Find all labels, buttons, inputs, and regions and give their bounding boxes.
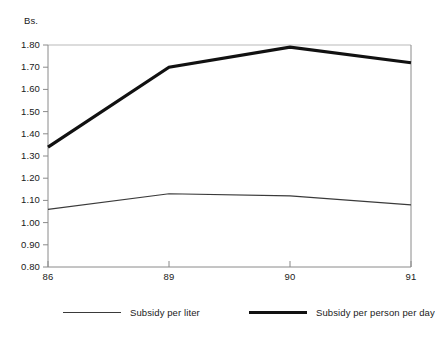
series-line-thick [48,47,411,147]
x-tick-label: 91 [391,271,431,282]
y-tick-label: 1.40 [4,128,40,139]
x-tick-label: 89 [149,271,189,282]
y-tick-label: 1.20 [4,172,40,183]
legend-swatch-icon-thin [63,312,121,313]
series-lines [48,47,411,209]
legend-swatch-icon-thick [249,311,307,314]
legend-label: Subsidy per liter [130,307,200,318]
y-tick-label: 1.80 [4,39,40,50]
y-tick-label: 1.70 [4,61,40,72]
y-tick-label: 0.90 [4,239,40,250]
chart-legend: Subsidy per liter Subsidy per person per… [0,303,433,325]
y-tick-marks [43,45,48,267]
y-tick-label: 1.50 [4,106,40,117]
legend-entry-subsidy-per-person-per-day[interactable]: Subsidy per person per day [249,303,435,321]
x-tick-label: 90 [270,271,310,282]
x-tick-label: 86 [28,271,68,282]
y-tick-label: 1.00 [4,217,40,228]
y-tick-label: 1.30 [4,150,40,161]
y-tick-label: 1.60 [4,83,40,94]
x-tick-marks [48,261,411,267]
legend-entry-subsidy-per-liter[interactable]: Subsidy per liter [63,303,200,321]
series-line-thin [48,194,411,210]
y-tick-label: 1.10 [4,194,40,205]
legend-label: Subsidy per person per day [316,307,435,318]
